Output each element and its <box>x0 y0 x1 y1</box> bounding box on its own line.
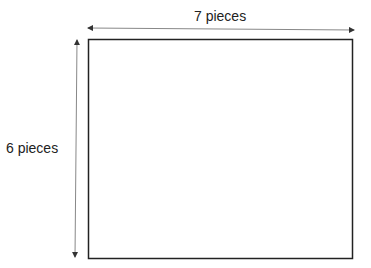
width-label: 7 pieces <box>194 8 246 24</box>
height-arrow <box>75 40 77 257</box>
rectangle <box>89 40 353 259</box>
height-label: 6 pieces <box>6 140 58 156</box>
diagram-canvas <box>0 0 371 268</box>
width-arrow <box>88 28 354 30</box>
